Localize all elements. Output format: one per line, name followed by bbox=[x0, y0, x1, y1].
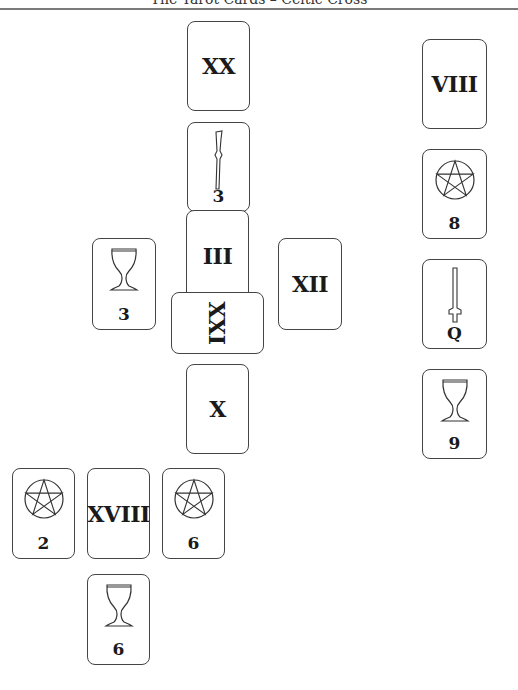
header-divider bbox=[0, 8, 518, 10]
card-rank: Q bbox=[423, 323, 486, 343]
card-staff-1[interactable]: VIII bbox=[422, 39, 487, 129]
page-title: The Tarot Cards – Celtic Cross bbox=[0, 0, 518, 7]
card-below[interactable]: X bbox=[186, 364, 249, 454]
card-cross[interactable]: XXI bbox=[171, 292, 264, 354]
pentacle-icon bbox=[163, 477, 224, 521]
card-numeral: VIII bbox=[432, 71, 478, 97]
pentacle-icon bbox=[423, 158, 486, 202]
card-staff-2[interactable]: 8 bbox=[422, 149, 487, 239]
card-numeral: XII bbox=[292, 271, 328, 297]
card-future[interactable]: XII bbox=[278, 238, 342, 330]
card-past[interactable]: 3 bbox=[92, 238, 156, 330]
cup-icon bbox=[88, 583, 149, 629]
card-staff-4[interactable]: 9 bbox=[422, 369, 487, 459]
card-numeral: XVIII bbox=[87, 501, 150, 527]
card-rank: 3 bbox=[93, 304, 155, 324]
card-rank: 9 bbox=[423, 433, 486, 453]
card-numeral: X bbox=[209, 396, 226, 422]
card-row-4[interactable]: 6 bbox=[87, 574, 150, 665]
cup-icon bbox=[93, 247, 155, 293]
pentacle-icon bbox=[13, 477, 74, 521]
card-numeral: III bbox=[203, 243, 232, 269]
card-root[interactable]: 3 bbox=[187, 122, 250, 212]
wand-icon bbox=[188, 129, 249, 193]
card-row-2[interactable]: XVIII bbox=[87, 468, 150, 559]
card-cover[interactable]: III bbox=[186, 210, 249, 302]
sword-icon bbox=[423, 266, 486, 328]
card-rank: 2 bbox=[13, 533, 74, 553]
card-rank: 8 bbox=[423, 213, 486, 233]
cup-icon bbox=[423, 378, 486, 424]
card-numeral: XX bbox=[202, 53, 235, 79]
card-row-3[interactable]: 6 bbox=[162, 468, 225, 559]
card-rank: 6 bbox=[163, 533, 224, 553]
card-row-1[interactable]: 2 bbox=[12, 468, 75, 559]
card-rank: 3 bbox=[188, 186, 249, 206]
card-numeral: XXI bbox=[205, 302, 231, 345]
card-staff-3[interactable]: Q bbox=[422, 259, 487, 349]
card-crown[interactable]: XX bbox=[187, 21, 250, 111]
card-rank: 6 bbox=[88, 639, 149, 659]
